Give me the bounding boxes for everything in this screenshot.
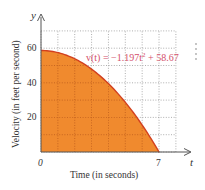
- x-axis-symbol: t: [190, 156, 194, 168]
- equation-constant: + 58.67: [146, 52, 179, 63]
- x-tick-0: 0: [38, 158, 43, 168]
- y-tick-60: 60: [27, 43, 37, 53]
- velocity-chart: y t 0 7 60 40 20 v(t) = −1.197t2 + 58.67…: [0, 0, 205, 190]
- area-under-curve: [41, 51, 159, 153]
- equation-main: v(t) = −1.197t: [86, 52, 142, 64]
- y-axis-symbol: y: [30, 9, 36, 21]
- more-options-icon[interactable]: [195, 43, 197, 60]
- y-tick-20: 20: [27, 112, 37, 122]
- x-axis-title: Time (in seconds): [70, 170, 138, 181]
- x-tick-7: 7: [156, 158, 161, 168]
- equation-annotation: v(t) = −1.197t2 + 58.67: [86, 51, 179, 64]
- y-tick-40: 40: [27, 78, 37, 88]
- y-axis-title: Velocity (in feet per second): [11, 40, 22, 148]
